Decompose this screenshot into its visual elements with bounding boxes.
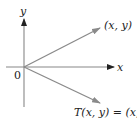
x-axis-label: x [117,61,124,74]
origin-label: 0 [14,69,21,82]
reflection-diagram: y x 0 (x, y) T(x, y) = (x, − [0,0,137,123]
vector-image-label: T(x, y) = (x, − [74,106,137,119]
y-axis-label: y [19,5,27,18]
vector-original [24,28,100,67]
vector-original-label: (x, y) [104,19,132,32]
vector-image [24,67,100,103]
